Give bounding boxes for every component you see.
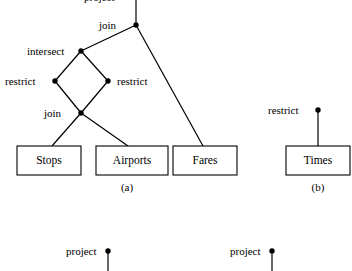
node-project-right: [269, 248, 274, 253]
operator-label-project-left: project: [66, 246, 97, 257]
node-intersect: [78, 48, 83, 53]
node-restrict-left: [52, 78, 57, 83]
operator-label-restrict-right: restrict: [117, 76, 148, 87]
relational-algebra-figure: project join intersect restrict restrict…: [0, 0, 352, 271]
node-join-top: [133, 22, 138, 27]
operator-label-join-top: join: [99, 20, 116, 31]
figure-vector-canvas: [0, 0, 352, 271]
operator-label-restrict-times: restrict: [268, 105, 299, 116]
clipped-project-label-top: project: [84, 0, 115, 3]
operator-label-project-right: project: [230, 246, 261, 257]
edge-restrict-right-to-join-lower: [81, 81, 108, 113]
node-join-lower: [78, 110, 83, 115]
relation-label-stops: Stops: [17, 155, 81, 167]
operator-label-join-lower: join: [44, 108, 61, 119]
caption-diagram-b: (b): [298, 182, 338, 193]
operator-label-intersect: intersect: [27, 46, 64, 57]
diagram-b-nodes: [315, 107, 320, 112]
edge-join-lower-to-airports: [81, 113, 128, 146]
node-restrict-times: [315, 107, 320, 112]
edge-intersect-to-restrict-right: [81, 51, 108, 81]
node-restrict-right: [105, 78, 110, 83]
diagram-a-edges: [52, 0, 203, 146]
caption-diagram-a: (a): [107, 182, 147, 193]
relation-label-fares: Fares: [173, 155, 237, 167]
node-project-left: [105, 248, 110, 253]
operator-label-restrict-left: restrict: [5, 76, 36, 87]
relation-label-airports: Airports: [96, 155, 168, 167]
relation-label-times: Times: [286, 155, 350, 167]
